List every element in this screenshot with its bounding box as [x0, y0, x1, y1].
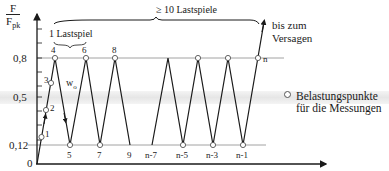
point-label-9: 9	[127, 150, 132, 160]
legend: Belastungspunkte für die Messungen	[284, 90, 382, 114]
y-tick-0.5: 0,5	[13, 92, 27, 102]
legend-line2: für die Messungen	[284, 102, 382, 114]
until-failure-line2: Versagen	[272, 33, 312, 43]
point-label-n: n	[263, 54, 268, 64]
point-label-1: 1	[45, 129, 50, 139]
load-cycle-diagram	[0, 0, 389, 171]
legend-line1: Belastungspunkte	[296, 90, 378, 102]
y-axis-ticks	[37, 29, 42, 140]
until-failure-line1: bis zum	[272, 20, 307, 30]
point-label-3: 3	[44, 75, 49, 85]
brace-ten-cycles	[54, 17, 259, 24]
y-tick-0.12: 0,12	[9, 140, 28, 150]
load-curve-end	[152, 22, 264, 145]
point-label-2: 2	[50, 103, 55, 113]
y-tick-0.8: 0,8	[13, 53, 27, 63]
point-label-n-3: n-3	[206, 150, 218, 160]
point-label-n-7: n-7	[145, 150, 157, 160]
point-label-4: 4	[51, 45, 56, 55]
y-axis-label: F Fpk	[6, 3, 20, 32]
one-cycle-label: 1 Lastspiel	[49, 29, 93, 39]
w0-label: wo	[66, 78, 77, 92]
point-label-8: 8	[112, 45, 117, 55]
point-label-7: 7	[97, 150, 102, 160]
point-label-n-5: n-5	[176, 150, 188, 160]
point-label-5: 5	[67, 150, 72, 160]
y-tick-0: 0	[27, 158, 33, 168]
point-label-6: 6	[82, 45, 87, 55]
point-label-n-1: n-1	[236, 150, 248, 160]
ten-cycles-label: ≥ 10 Lastspiele	[156, 5, 217, 15]
measurement-point-icon	[284, 91, 291, 98]
